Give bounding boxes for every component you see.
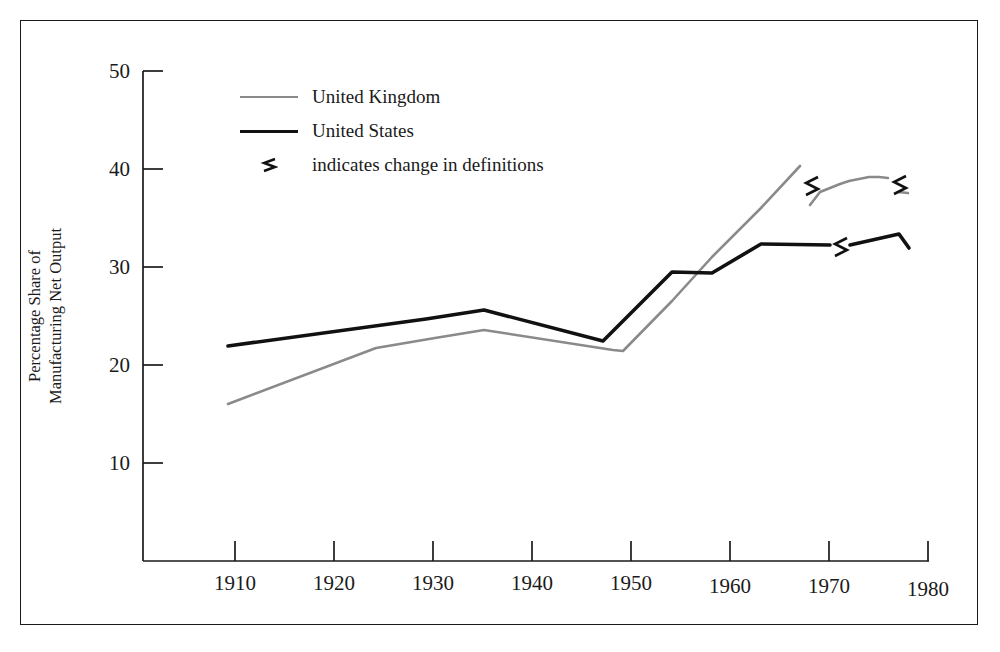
y-axis-ticks — [143, 71, 163, 463]
uk-segment-1 — [228, 166, 800, 404]
legend-label-definition-change: indicates change in definitions — [312, 154, 544, 176]
y-axis-title-line2: Manufacturing Net Output — [45, 186, 66, 446]
x-tick-label-1970: 1970 — [794, 574, 864, 599]
zigzag-icon — [260, 156, 278, 174]
y-axis-title: Percentage Share of Manufacturing Net Ou… — [24, 186, 66, 446]
chart-legend: United Kingdom United States indicates c… — [240, 80, 660, 182]
legend-swatch-gray-line — [240, 88, 298, 106]
x-tick-label-1950: 1950 — [596, 571, 666, 596]
legend-item-united-kingdom: United Kingdom — [240, 80, 660, 114]
legend-item-united-states: United States — [240, 114, 660, 148]
x-tick-label-1930: 1930 — [398, 571, 468, 596]
x-axis-ticks — [235, 541, 928, 561]
zigzag-icon-us-1971 — [835, 238, 847, 256]
legend-swatch-black-line — [240, 122, 298, 140]
legend-label-united-states: United States — [312, 120, 414, 142]
series-united-kingdom — [228, 166, 908, 404]
legend-label-united-kingdom: United Kingdom — [312, 86, 440, 108]
chart-figure: 50 40 30 20 10 1910 1920 1930 1940 1950 … — [0, 0, 1000, 652]
zigzag-icon-uk-1978 — [894, 176, 906, 194]
y-tick-label-20: 20 — [84, 353, 130, 378]
y-tick-label-50: 50 — [84, 59, 130, 84]
y-tick-label-30: 30 — [84, 255, 130, 280]
x-tick-label-1960: 1960 — [695, 574, 765, 599]
x-tick-label-1920: 1920 — [299, 571, 369, 596]
legend-item-definition-change: indicates change in definitions — [240, 148, 660, 182]
us-segment-1 — [228, 244, 830, 346]
y-axis-title-line1: Percentage Share of — [24, 186, 45, 446]
uk-segment-2 — [810, 177, 888, 205]
x-tick-label-1980: 1980 — [893, 577, 963, 602]
series-united-states — [228, 234, 909, 346]
x-tick-label-1940: 1940 — [497, 571, 567, 596]
zigzag-icon-uk-1969 — [806, 177, 818, 195]
y-tick-label-40: 40 — [84, 157, 130, 182]
legend-swatch-zigzag — [240, 156, 298, 174]
us-segment-2 — [850, 234, 909, 248]
x-tick-label-1910: 1910 — [200, 571, 270, 596]
y-tick-label-10: 10 — [84, 451, 130, 476]
